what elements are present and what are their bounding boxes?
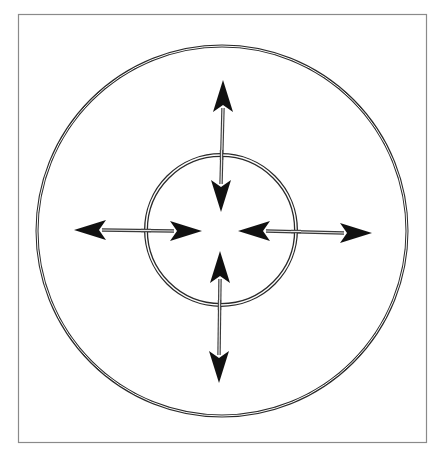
arrowhead-bottom-outward-icon [209, 351, 229, 383]
arrowhead-right-outward-icon [340, 223, 372, 243]
arrowhead-top-inward-icon [211, 180, 231, 212]
arrowhead-right-inward-icon [238, 221, 270, 241]
arrowhead-top-outward-icon [213, 80, 233, 112]
diagram-canvas [0, 0, 444, 463]
arrowhead-bottom-inward-icon [210, 251, 230, 283]
arrowhead-left-outward-icon [74, 220, 106, 240]
arrow-shafts [102, 108, 344, 355]
arrowhead-left-inward-icon [170, 221, 202, 241]
